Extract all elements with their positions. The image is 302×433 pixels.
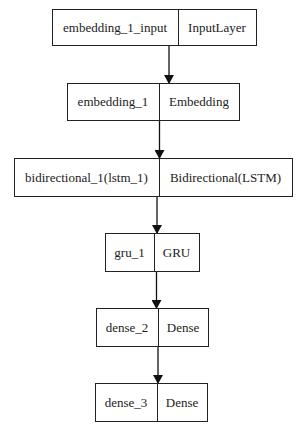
layer-name: dense_3 (105, 395, 148, 410)
layer-node: gru_1GRU (106, 234, 200, 272)
layer-name: embedding_1_input (63, 20, 167, 35)
layer-node: embedding_1Embedding (68, 84, 240, 121)
layer-class: InputLayer (188, 20, 246, 35)
layer-name: dense_2 (106, 320, 149, 335)
layer-node: embedding_1_inputInputLayer (53, 10, 257, 46)
model-diagram: embedding_1_inputInputLayerembedding_1Em… (0, 0, 302, 433)
layer-class: Dense (166, 395, 199, 410)
layer-class: GRU (163, 245, 191, 260)
layer-class: Bidirectional(LSTM) (170, 170, 281, 185)
layer-name: gru_1 (114, 245, 144, 260)
layer-node: bidirectional_1(lstm_1)Bidirectional(LST… (15, 159, 293, 197)
layer-node: dense_2Dense (97, 309, 209, 347)
layer-node: dense_3Dense (96, 384, 208, 422)
layer-class: Dense (167, 320, 200, 335)
layer-name: embedding_1 (78, 94, 149, 109)
layer-name: bidirectional_1(lstm_1) (25, 170, 148, 185)
layer-class: Embedding (169, 94, 229, 109)
